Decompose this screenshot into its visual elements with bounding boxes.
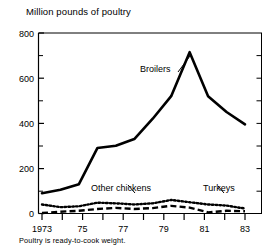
chart-footnote: Poultry is ready-to-cook weight.: [19, 236, 126, 245]
x-tick-label-1973: 1973: [32, 224, 52, 234]
x-tick-label-79: 79: [159, 224, 169, 234]
annotation-other-chickens: Other chickens: [91, 183, 152, 193]
series-line-other-chickens: [42, 200, 245, 209]
x-tick-label-83: 83: [240, 224, 250, 234]
chart-svg: 800 600 400 200 0 1973 75 77: [0, 0, 279, 252]
annotation-leader-lines: [128, 56, 224, 193]
x-tick-label-77: 77: [118, 224, 128, 234]
x-tick-label-81: 81: [199, 224, 209, 234]
right-axis-ticks: [257, 56, 262, 192]
y-tick-label-0: 0: [29, 209, 34, 219]
y-axis-major-ticks: [39, 33, 45, 214]
y-tick-label-200: 200: [19, 164, 34, 174]
y-tick-label-400: 400: [19, 119, 34, 129]
y-tick-label-600: 600: [19, 74, 34, 84]
plot-area-container: 800 600 400 200 0 1973 75 77: [0, 0, 279, 252]
x-tick-label-75: 75: [78, 224, 88, 234]
x-axis-ticks: [42, 214, 245, 221]
y-tick-label-800: 800: [19, 29, 34, 39]
annotation-broilers: Broilers: [140, 64, 171, 74]
poultry-line-chart-figure: Million pounds of poultry: [0, 0, 279, 252]
annotation-turkeys: Turkeys: [203, 183, 235, 193]
